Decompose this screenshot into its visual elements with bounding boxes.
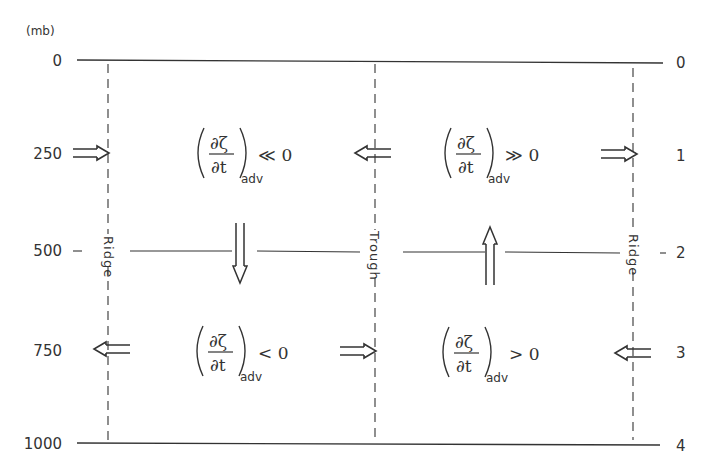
lower-right-vorticity-advection-expression: ∂ζ ∂t adv > 0 xyxy=(443,327,539,385)
lower-left-vorticity-advection-expression: ∂ζ ∂t adv < 0 xyxy=(197,326,288,384)
upper-left-subscript: adv xyxy=(241,172,263,186)
right-tick-1: 1 xyxy=(676,147,686,165)
upper-left-numerator: ∂ζ xyxy=(210,133,228,153)
upper-left-arrow-right xyxy=(73,146,109,160)
descending-motion-arrow xyxy=(233,223,247,283)
upper-right-subscript: adv xyxy=(488,172,510,186)
lower-left-numerator: ∂ζ xyxy=(209,331,227,351)
upper-right-vorticity-advection-expression: ∂ζ ∂t adv ≫ 0 xyxy=(445,128,539,186)
lower-left-arrow-left xyxy=(94,342,130,356)
left-tick-500: 500 xyxy=(33,242,62,260)
left-tick-750: 750 xyxy=(33,342,62,360)
upper-center-arrow-left xyxy=(355,146,391,160)
left-tick-1000: 1000 xyxy=(24,435,62,453)
lower-right-subscript: adv xyxy=(486,371,508,385)
right-tick-4: 4 xyxy=(676,437,686,455)
right-tick-2: 2 xyxy=(676,244,686,262)
lower-right-numerator: ∂ζ xyxy=(455,332,473,352)
right-tick-0: 0 xyxy=(676,54,686,72)
right-tick-3: 3 xyxy=(676,344,686,362)
trough-label: Trough xyxy=(367,230,382,281)
top-boundary-line xyxy=(77,60,663,63)
upper-left-vorticity-advection-expression: ∂ζ ∂t adv ≪ 0 xyxy=(198,128,292,186)
upper-right-numerator: ∂ζ xyxy=(457,133,475,153)
left-tick-0: 0 xyxy=(52,52,62,70)
lower-right-denominator: ∂t xyxy=(456,356,472,376)
upper-right-denominator: ∂t xyxy=(458,157,474,177)
left-axis-unit-label: (mb) xyxy=(26,24,55,38)
upper-right-relation: ≫ 0 xyxy=(505,145,539,165)
lower-center-arrow-right xyxy=(340,344,376,358)
left-ridge-label: Ridge xyxy=(101,236,116,278)
upper-left-relation: ≪ 0 xyxy=(258,145,292,165)
lower-right-relation: > 0 xyxy=(509,344,539,364)
right-ridge-label: Ridge xyxy=(626,234,641,276)
left-tick-250: 250 xyxy=(33,145,62,163)
lower-left-subscript: adv xyxy=(240,370,262,384)
upper-left-denominator: ∂t xyxy=(211,157,227,177)
bottom-boundary-line xyxy=(77,443,660,445)
upper-right-arrow-right xyxy=(601,147,637,161)
lower-left-denominator: ∂t xyxy=(210,355,226,375)
ascending-motion-arrow xyxy=(483,227,497,285)
lower-left-relation: < 0 xyxy=(258,343,288,363)
vorticity-advection-diagram: (mb) 0 250 500 750 1000 0 1 2 3 4 Ridge … xyxy=(0,0,709,475)
